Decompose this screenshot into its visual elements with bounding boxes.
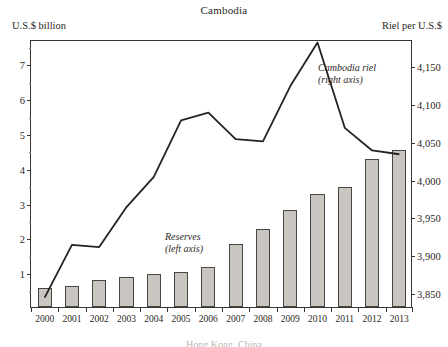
bar-series-annotation: Reserves (left axis) xyxy=(165,231,203,255)
y-axis-tick-label-right: 3,950 xyxy=(411,213,441,224)
y-axis-tick-label-right: 4,000 xyxy=(411,175,441,186)
x-axis-tick-label-2013: 2013 xyxy=(390,314,409,324)
y-axis-tick-label-left: 4 xyxy=(20,164,31,175)
y-axis-tick-label-left: 3 xyxy=(20,199,31,210)
x-axis-tick-label-2007: 2007 xyxy=(226,314,245,324)
x-axis-tick-label-2002: 2002 xyxy=(90,314,109,324)
y-axis-tick-label-left: 1 xyxy=(20,269,31,280)
y-axis-tick-label-right: 4,100 xyxy=(411,100,441,111)
x-axis-tick-label-2010: 2010 xyxy=(308,314,327,324)
chart-title: Cambodia xyxy=(0,4,448,16)
line-series-annotation: Cambodia riel (right axis) xyxy=(318,62,376,86)
x-axis-tick-label-2012: 2012 xyxy=(363,314,382,324)
x-axis-tick-label-2004: 2004 xyxy=(144,314,163,324)
y-axis-tick-label-right: 3,900 xyxy=(411,251,441,262)
y-axis-tick-label-right: 3,850 xyxy=(411,288,441,299)
line-series-annotation-axis: (right axis) xyxy=(318,74,376,86)
left-axis-caption: U.S.$ billion xyxy=(12,20,66,31)
y-axis-tick-label-left: 5 xyxy=(20,129,31,140)
x-axis-tick-label-2000: 2000 xyxy=(35,314,54,324)
x-axis-tick-label-2003: 2003 xyxy=(117,314,136,324)
x-axis-tick-label-2006: 2006 xyxy=(199,314,218,324)
right-axis-caption: Riel per U.S.$ xyxy=(382,20,442,31)
bar-series-annotation-axis: (left axis) xyxy=(165,243,203,255)
line-series-annotation-name: Cambodia riel xyxy=(318,62,376,74)
x-axis-tick-label-2009: 2009 xyxy=(281,314,300,324)
y-axis-tick-label-right: 4,050 xyxy=(411,137,441,148)
chart-container: Cambodia U.S.$ billion Riel per U.S.$ 12… xyxy=(0,0,448,347)
y-axis-tick-label-left: 6 xyxy=(20,95,31,106)
y-axis-tick-label-right: 4,150 xyxy=(411,62,441,73)
x-axis-tick-label-2008: 2008 xyxy=(253,314,272,324)
x-axis-tick-label-2001: 2001 xyxy=(62,314,81,324)
y-axis-tick-label-left: 2 xyxy=(20,234,31,245)
x-axis-tick-label-2011: 2011 xyxy=(335,314,354,324)
x-axis-tick-label-2005: 2005 xyxy=(172,314,191,324)
y-axis-tick-label-left: 7 xyxy=(20,60,31,71)
bar-series-annotation-name: Reserves xyxy=(165,231,203,243)
footnote-text: Hong Kong, China xyxy=(0,339,448,347)
